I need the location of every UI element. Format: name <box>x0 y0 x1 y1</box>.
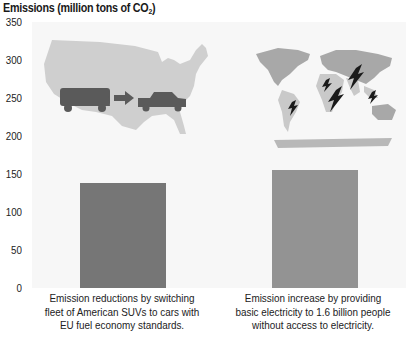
caption-line: EU fuel economy standards. <box>36 319 208 333</box>
y-tick-label: 150 <box>3 168 22 180</box>
caption-line: fleet of American SUVs to cars with <box>36 306 208 320</box>
category-label-1: Emission reductions by switchingfleet of… <box>36 292 208 333</box>
y-tick-label: 300 <box>3 54 22 66</box>
y-tick-label: 350 <box>3 16 22 28</box>
y-tick-label: 200 <box>3 130 22 142</box>
world-map-lightning-icon <box>252 40 406 150</box>
caption-line: basic electricity to 1.6 billion people <box>227 306 399 320</box>
caption-line: without access to electricity. <box>227 319 399 333</box>
usa-map-suv-to-car-icon <box>40 34 240 154</box>
y-tick-label: 250 <box>3 92 22 104</box>
caption-line: Emission increase by providing <box>227 292 399 306</box>
category-label-2: Emission increase by providingbasic elec… <box>227 292 399 333</box>
y-tick-label: 0 <box>3 282 22 294</box>
y-tick-label: 50 <box>3 244 22 256</box>
y-tick-label: 100 <box>3 206 22 218</box>
bar-1 <box>80 183 166 288</box>
chart-title: Emissions (million tons of CO2) <box>3 1 155 16</box>
bar-2 <box>272 170 358 288</box>
caption-line: Emission reductions by switching <box>36 292 208 306</box>
